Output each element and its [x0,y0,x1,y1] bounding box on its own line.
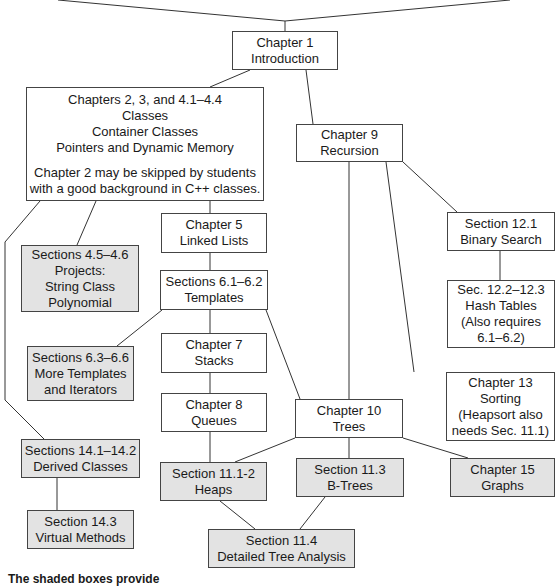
node-label: 6.1–6.2) [477,330,525,346]
node-label: Virtual Methods [35,530,125,546]
node-label: Section 11.1-2 [172,466,255,482]
node-label: String Class [45,279,115,295]
node-label: Chapter 13 [468,375,532,391]
node-note: Chapter 2 may be skipped by students [34,165,256,181]
node-label: Trees [333,419,366,435]
node-chapters-2-3-4: Chapters 2, 3, and 4.1–4.4 Classes Conta… [26,87,264,201]
node-label: Section 11.3 [314,462,385,478]
node-chapter-1-introduction: Chapter 1 Introduction [232,31,338,70]
node-sections-6-3-6-6: Sections 6.3–6.6 More Templates and Iter… [27,346,134,401]
node-label: Chapter 8 [185,397,242,413]
node-chapter-10-trees: Chapter 10 Trees [295,399,403,438]
node-label: More Templates [34,366,126,382]
node-sec-12-2-hash-tables: Sec. 12.2–12.3 Hash Tables (Also require… [447,280,555,348]
node-label: Chapter 9 [321,127,378,143]
node-label: Chapters 2, 3, and 4.1–4.4 [68,92,222,108]
node-label: Graphs [481,478,524,494]
node-label: Pointers and Dynamic Memory [56,140,234,156]
node-label: Chapter 10 [317,403,381,419]
node-label: Linked Lists [180,233,249,249]
node-label: Classes [122,108,168,124]
node-chapter-8-queues: Chapter 8 Queues [161,393,267,432]
node-label: Polynomial [48,295,112,311]
node-label: Stacks [194,353,233,369]
node-label: (Also requires [461,314,541,330]
node-section-11-1-2-heaps: Section 11.1-2 Heaps [160,462,267,501]
node-label: Sections 6.3–6.6 [32,350,129,366]
node-chapter-9-recursion: Chapter 9 Recursion [296,124,403,162]
node-chapter-5-linked-lists: Chapter 5 Linked Lists [161,213,267,253]
node-label: Chapter 7 [185,337,242,353]
node-label: Templates [184,290,243,306]
node-section-11-4-detailed-tree-analysis: Section 11.4 Detailed Tree Analysis [208,529,355,568]
node-sections-6-1-6-2: Sections 6.1–6.2 Templates [160,270,268,310]
node-label: Sections 14.1–14.2 [25,443,136,459]
node-note: with a good background in C++ classes. [30,181,261,197]
node-label: Recursion [320,143,379,159]
node-label: Sec. 12.2–12.3 [457,282,544,298]
connector-top [58,0,510,21]
node-label: Chapter 1 [256,35,313,51]
node-section-11-3-b-trees: Section 11.3 B-Trees [296,458,404,497]
node-label: Chapter 5 [185,217,242,233]
node-sections-4-5-4-6: Sections 4.5–4.6 Projects: String Class … [21,245,139,312]
node-section-14-3-virtual-methods: Section 14.3 Virtual Methods [27,510,134,549]
node-label: needs Sec. 11.1) [452,423,549,439]
node-label: Section 12.1 [465,216,537,232]
node-label: Sorting [480,391,521,407]
node-label: Sections 4.5–4.6 [32,247,129,263]
node-label: Queues [191,413,237,429]
node-label: B-Trees [327,478,373,494]
legend-caption: The shaded boxes provide [8,572,159,586]
node-section-12-1-binary-search: Section 12.1 Binary Search [447,212,555,251]
node-label: Detailed Tree Analysis [217,549,346,565]
node-label: Introduction [251,51,319,67]
node-label: Sections 6.1–6.2 [166,274,263,290]
node-label: Binary Search [460,232,542,248]
node-label: Hash Tables [465,298,536,314]
node-label: Chapter 15 [470,462,534,478]
node-chapter-13-sorting: Chapter 13 Sorting (Heapsort also needs … [446,372,555,441]
node-chapter-7-stacks: Chapter 7 Stacks [161,333,267,373]
node-label: Section 14.3 [44,514,116,530]
node-label: and Iterators [44,382,117,398]
node-label: Heaps [195,482,233,498]
node-label: Container Classes [92,124,198,140]
node-sections-14-1-14-2: Sections 14.1–14.2 Derived Classes [21,439,140,478]
node-label: (Heapsort also [458,407,543,423]
node-chapter-15-graphs: Chapter 15 Graphs [450,458,555,497]
node-label: Derived Classes [33,459,128,475]
node-label: Section 11.4 [246,533,317,549]
node-label: Projects: [55,263,106,279]
